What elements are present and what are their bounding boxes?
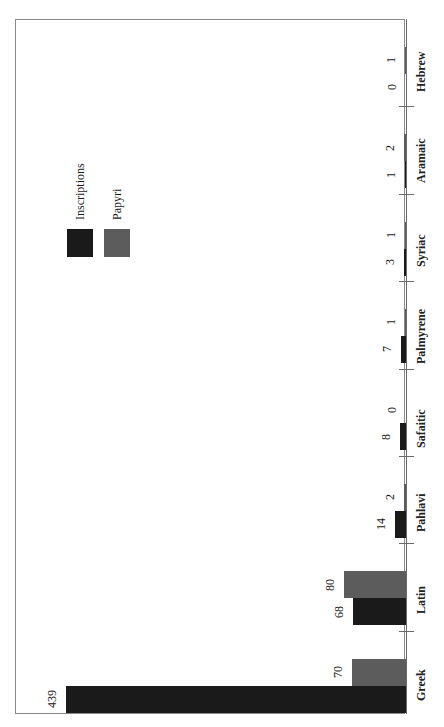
legend-label-inscriptions: Inscriptions [74,163,87,220]
bar-papyri-syriac [405,222,407,249]
category-label-syriac: Syriac [415,234,428,267]
bar-inscriptions-aramaic [405,161,407,188]
data-label-inscriptions-pahlavi: 14 [375,518,387,530]
legend-swatch-inscriptions [67,229,93,257]
data-label-papyri-palmyrene: 1 [385,319,397,325]
bar-papyri-aramaic [404,134,406,161]
category-label-pahlavi: Pahlavi [415,493,428,532]
axis-tick [399,456,414,457]
bar-papyri-hebrew [405,47,407,74]
bar-inscriptions-pahlavi [395,511,406,538]
data-label-papyri-pahlavi: 2 [384,494,396,500]
data-label-papyri-aramaic: 2 [384,145,396,151]
axis-tick [399,631,414,632]
category-label-latin: Latin [415,586,428,614]
bar-chart: 10Hebrew21Aramaic13Syriac17Palmyrene08Sa… [0,0,444,727]
axis-tick [399,106,414,107]
axis-tick [399,281,414,282]
category-label-hebrew: Hebrew [415,52,428,92]
category-axis [406,19,407,714]
bar-papyri-palmyrene [405,309,407,336]
axis-tick [399,194,414,195]
category-label-palmyrene: Palmyrene [415,309,428,364]
data-label-papyri-latin: 80 [324,579,336,591]
data-label-inscriptions-syriac: 3 [384,259,396,265]
data-label-inscriptions-aramaic: 1 [385,172,397,178]
data-label-papyri-greek: 70 [332,666,344,678]
category-label-greek: Greek [415,669,428,701]
bar-papyri-pahlavi [404,484,406,511]
axis-tick [399,369,414,370]
data-label-inscriptions-hebrew: 0 [386,84,398,90]
category-label-aramaic: Aramaic [415,138,428,183]
legend-swatch-papyri [104,229,130,257]
bar-papyri-latin [344,571,406,598]
bar-papyri-greek [352,659,406,686]
legend-label-papyri: Papyri [111,189,124,220]
bar-inscriptions-palmyrene [401,336,406,363]
axis-tick [399,543,414,544]
bar-inscriptions-latin [353,598,406,625]
category-label-safaitic: Safaitic [415,409,428,448]
bar-inscriptions-safaitic [400,423,406,450]
data-label-papyri-syriac: 1 [385,232,397,238]
data-label-inscriptions-greek: 439 [46,690,58,708]
data-label-papyri-hebrew: 1 [385,57,397,63]
data-label-inscriptions-palmyrene: 7 [381,346,393,352]
bar-inscriptions-greek [66,686,406,713]
data-label-inscriptions-latin: 68 [333,606,345,618]
bar-inscriptions-syriac [404,249,406,276]
data-label-inscriptions-safaitic: 8 [380,434,392,440]
chart-frame [15,19,405,714]
data-label-papyri-safaitic: 0 [386,407,398,413]
